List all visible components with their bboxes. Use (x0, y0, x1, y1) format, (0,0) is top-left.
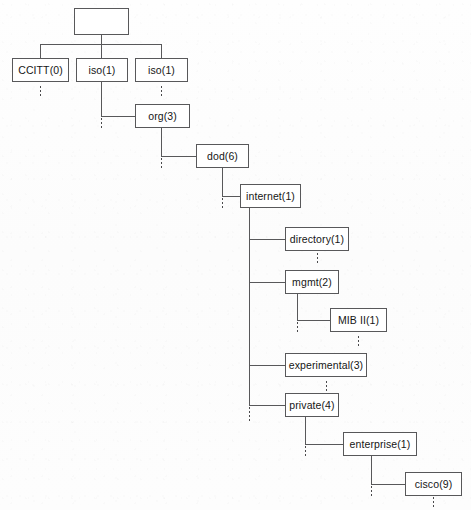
node-label-ccitt: CCITT(0) (18, 65, 63, 76)
continuation-dots-dod-bus-more (222, 198, 223, 210)
edge-bus-to-ccitt (40, 44, 41, 58)
edge-internet-to-private (249, 405, 285, 406)
node-mgmt[interactable]: mgmt(2) (285, 270, 339, 294)
edge-internet-to-directory (249, 239, 285, 240)
continuation-dots-enterprise-bus-more (371, 486, 372, 498)
node-cisco[interactable]: cisco(9) (405, 472, 462, 496)
continuation-dots-ccitt-more (40, 86, 41, 98)
edge-internet-drop (249, 208, 250, 405)
edge-dod-to-internet (222, 196, 240, 197)
edge-private-to-enterprise (305, 444, 343, 445)
continuation-dots-internet-bus-more (249, 407, 250, 421)
node-label-iso1: iso(1) (89, 65, 116, 76)
edge-mgmt-drop (297, 294, 298, 320)
node-iso2[interactable]: iso(1) (135, 58, 188, 82)
node-label-internet: internet(1) (246, 191, 295, 202)
continuation-dots-org-bus-more (161, 158, 162, 170)
edge-iso1-drop (101, 82, 102, 116)
edge-bus-to-iso1 (101, 44, 102, 58)
node-iso1[interactable]: iso(1) (76, 58, 128, 82)
edge-enterprise-drop (371, 456, 372, 484)
node-label-dod: dod(6) (207, 151, 238, 162)
node-enterprise[interactable]: enterprise(1) (343, 432, 417, 456)
node-dod[interactable]: dod(6) (196, 144, 249, 168)
edge-root-drop (101, 35, 102, 44)
node-label-private: private(4) (289, 400, 334, 411)
edge-dod-drop (222, 168, 223, 196)
continuation-dots-cisco-more (433, 497, 434, 508)
continuation-dots-mgmt-bus-more (297, 322, 298, 334)
node-label-mib2: MIB II(1) (338, 315, 379, 326)
continuation-dots-mib2-more (358, 336, 359, 348)
continuation-dots-private-bus-more (305, 446, 306, 458)
node-private[interactable]: private(4) (285, 393, 339, 417)
edge-private-drop (305, 417, 306, 444)
edge-enterprise-to-cisco (371, 484, 405, 485)
object-identifier-tree-diagram: CCITT(0)iso(1)iso(1)org(3)dod(6)internet… (0, 0, 471, 510)
node-mib2[interactable]: MIB II(1) (330, 308, 387, 332)
node-ccitt[interactable]: CCITT(0) (12, 58, 69, 82)
node-label-org: org(3) (148, 111, 177, 122)
node-label-directory: directory(1) (290, 234, 344, 245)
edge-internet-to-exper (249, 365, 285, 366)
edge-internet-to-mgmt (249, 282, 285, 283)
node-label-mgmt: mgmt(2) (292, 277, 332, 288)
node-root[interactable] (74, 8, 129, 35)
node-label-cisco: cisco(9) (415, 479, 453, 490)
continuation-dots-iso1-bus-more (101, 118, 102, 130)
node-label-enterprise: enterprise(1) (350, 439, 411, 450)
continuation-dots-directory-more (317, 253, 318, 265)
node-label-iso2: iso(1) (148, 65, 175, 76)
edge-bus-to-iso2 (161, 44, 162, 58)
edge-org-to-dod (161, 156, 196, 157)
node-internet[interactable]: internet(1) (240, 184, 301, 208)
node-org[interactable]: org(3) (135, 104, 190, 128)
continuation-dots-iso2-more (161, 86, 162, 98)
edge-iso1-to-org (101, 116, 135, 117)
node-label-experimental: experimental(3) (289, 360, 363, 371)
edge-org-drop (161, 128, 162, 156)
edge-mgmt-to-mib2 (297, 320, 330, 321)
node-directory[interactable]: directory(1) (285, 227, 349, 251)
continuation-dots-experimental-more (326, 381, 327, 393)
node-experimental[interactable]: experimental(3) (285, 353, 367, 377)
